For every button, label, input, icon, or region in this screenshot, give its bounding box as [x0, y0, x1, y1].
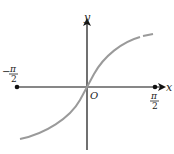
- y-axis-label: y: [83, 11, 91, 24]
- left-label-numerator: π: [9, 64, 17, 74]
- left-endpoint-dot: [15, 85, 20, 90]
- function-curve: [20, 37, 140, 139]
- x-axis-label: x: [166, 81, 173, 94]
- graph-figure: y x O − π 2 π 2: [0, 0, 174, 154]
- right-label-denominator: 2: [152, 101, 158, 111]
- left-label-denominator: 2: [11, 74, 17, 84]
- origin-label: O: [90, 90, 98, 101]
- right-label-numerator: π: [150, 91, 158, 101]
- graph-svg: y x O − π 2 π 2: [0, 0, 174, 154]
- right-endpoint-dot: [153, 85, 158, 90]
- function-curve-dashed-end: [143, 34, 153, 36]
